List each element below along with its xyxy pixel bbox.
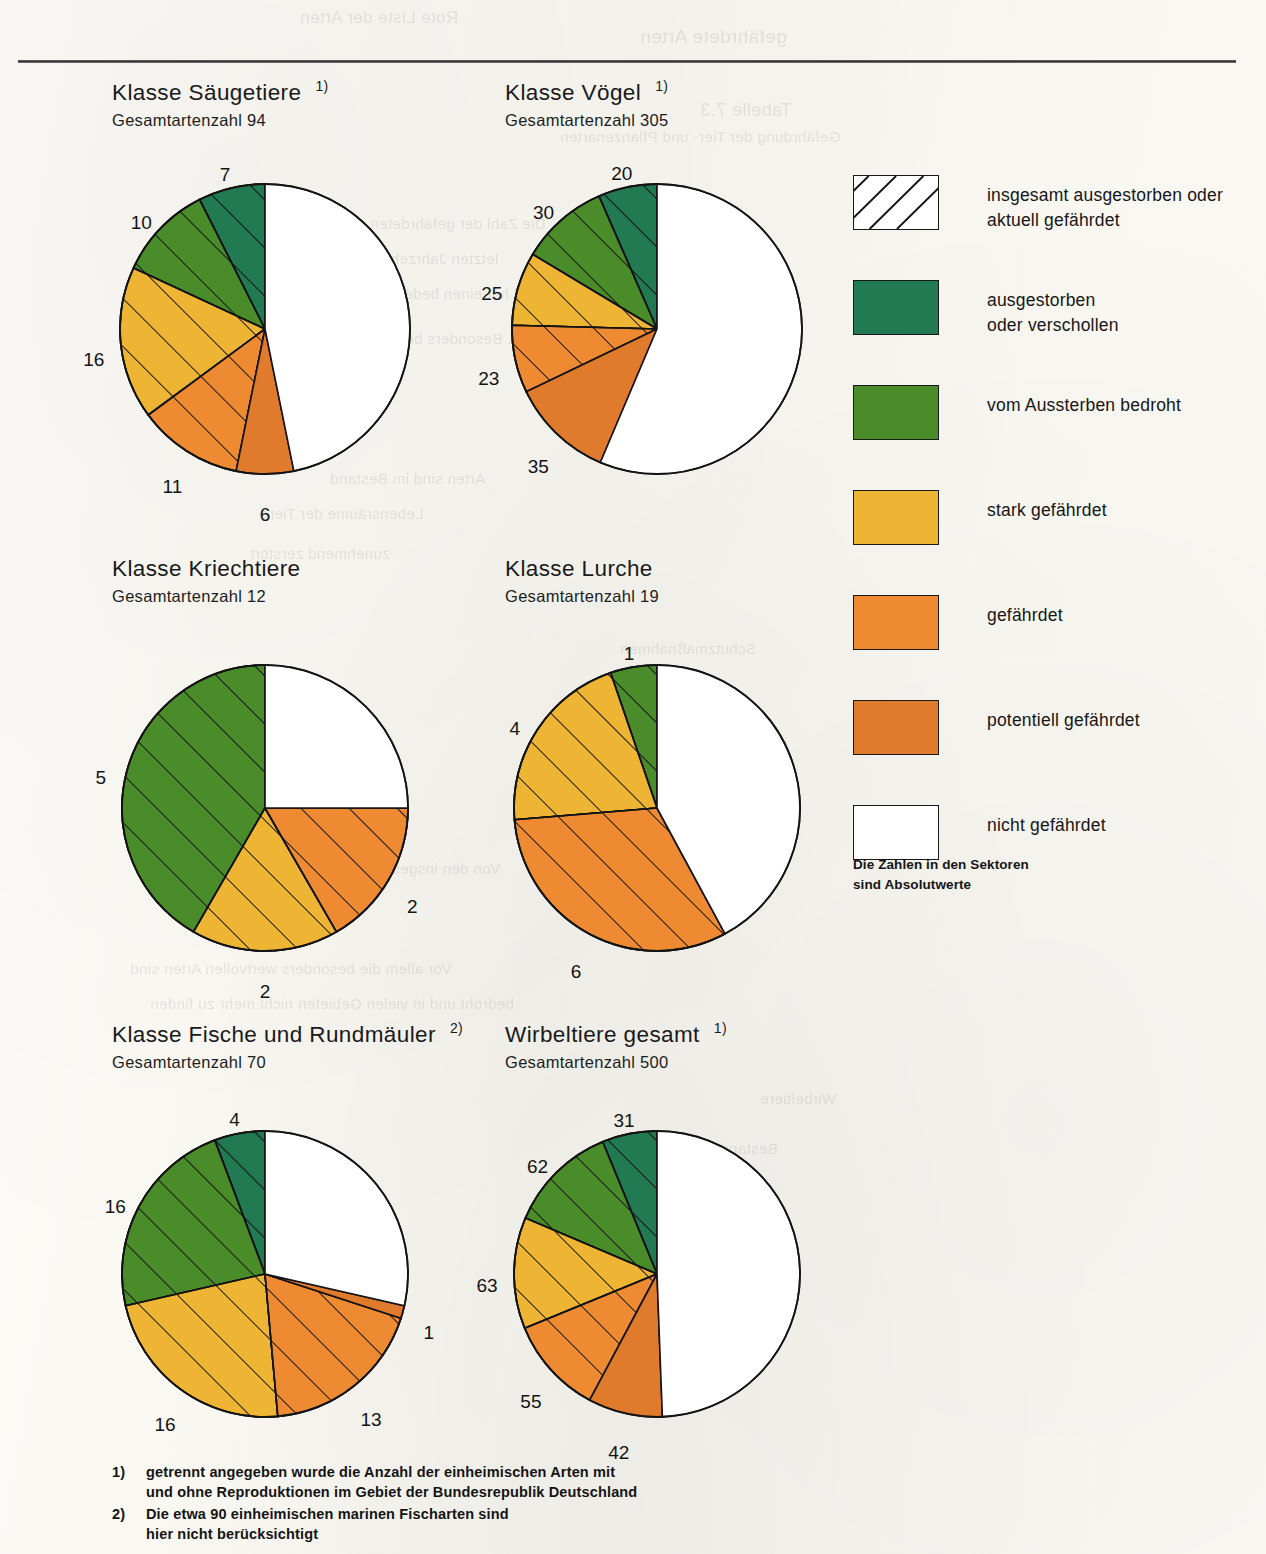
pie-sector-label: 55 (520, 1391, 541, 1413)
pie-sector-label: 10 (131, 212, 152, 234)
pie-sector-label: 2 (407, 896, 418, 918)
hatch-pattern-icon (854, 176, 938, 229)
chart-title-text: Klasse Säugetiere (112, 80, 301, 105)
legend-swatch (853, 595, 939, 650)
pie-sector (657, 1131, 800, 1417)
pie-sector-label: 11 (163, 476, 183, 498)
pie-sector-label: 25 (481, 283, 502, 305)
legend-label: ausgestorben oder verschollen (987, 288, 1257, 338)
footnote: 1)getrennt angegeben wurde die Anzahl de… (112, 1462, 637, 1502)
legend-note: Die Zahlen in den Sektoren sind Absolutw… (853, 855, 1029, 894)
pie-sector-label: 16 (105, 1196, 126, 1218)
pie-sector-label: 23 (478, 368, 499, 390)
bleed-through-line: Rote Liste der Arten (300, 8, 458, 28)
legend-strongly-endangered: stark gefährdet (853, 490, 1253, 595)
footnote-text: getrennt angegeben wurde die Anzahl der … (146, 1462, 637, 1502)
pie-sector-label: 6 (571, 961, 582, 983)
chart-title-text: Wirbeltiere gesamt (505, 1022, 700, 1047)
legend-total-endangered: insgesamt ausgestorben oder aktuell gefä… (853, 175, 1253, 280)
chart-title-kriechtiere: Klasse Kriechtiere (112, 556, 458, 582)
pie-sector-label: 6 (260, 504, 271, 526)
footnote: 2)Die etwa 90 einheimischen marinen Fisc… (112, 1504, 637, 1544)
pie-chart-saeugetiere: Klasse Säugetiere1)Gesamtartenzahl 94710… (112, 78, 458, 524)
legend-label: insgesamt ausgestorben oder aktuell gefä… (987, 183, 1257, 233)
bleed-through-line: gefährdete Arten (640, 26, 787, 48)
chart-footnote-marker: 2) (450, 1020, 463, 1036)
chart-footnote-marker: 1) (714, 1020, 727, 1036)
pie-sector (265, 665, 408, 808)
pie-sector-label: 20 (611, 163, 632, 185)
pie-sector-label: 4 (509, 718, 520, 740)
pie-chart-fische: Klasse Fische und Rundmäuler2)Gesamtarte… (112, 1020, 463, 1467)
pie-svg-voegel (505, 144, 849, 524)
chart-subtitle-wirbeltiere: Gesamtartenzahl 500 (505, 1053, 849, 1072)
pie-sector-label: 1 (424, 1322, 435, 1344)
pie-sector-label: 13 (360, 1409, 381, 1431)
pie-sector-label: 63 (476, 1275, 497, 1297)
pie-sector-label: 16 (154, 1414, 175, 1436)
chart-subtitle-fische: Gesamtartenzahl 70 (112, 1053, 463, 1072)
chart-title-text: Klasse Fische und Rundmäuler (112, 1022, 436, 1047)
chart-title-voegel: Klasse Vögel1) (505, 78, 849, 106)
chart-title-text: Klasse Vögel (505, 80, 641, 105)
pie-saeugetiere: 71016116 (112, 144, 458, 524)
pie-svg-lurche (505, 620, 849, 1001)
pie-voegel: 2030252335 (505, 144, 849, 524)
chart-footnote-marker: 1) (315, 78, 328, 94)
legend: insgesamt ausgestorben oder aktuell gefä… (853, 175, 1253, 910)
pie-sector-label: 1 (624, 643, 635, 665)
chart-subtitle-voegel: Gesamtartenzahl 305 (505, 111, 849, 130)
chart-title-wirbeltiere: Wirbeltiere gesamt1) (505, 1020, 849, 1048)
footnote-text: Die etwa 90 einheimischen marinen Fischa… (146, 1504, 509, 1544)
pie-sector-label: 5 (96, 767, 107, 789)
legend-endangered: gefährdet (853, 595, 1253, 700)
legend-extinct: ausgestorben oder verschollen (853, 280, 1253, 385)
pie-sector-label: 42 (608, 1442, 629, 1464)
chart-subtitle-kriechtiere: Gesamtartenzahl 12 (112, 587, 458, 606)
legend-label: nicht gefährdet (987, 813, 1257, 838)
legend-threatened-extinction: vom Aussterben bedroht (853, 385, 1253, 490)
header-rule (18, 60, 1236, 63)
chart-title-lurche: Klasse Lurche (505, 556, 849, 582)
chart-title-fische: Klasse Fische und Rundmäuler2) (112, 1020, 463, 1048)
legend-swatch (853, 805, 939, 860)
pie-chart-wirbeltiere: Wirbeltiere gesamt1)Gesamtartenzahl 5003… (505, 1020, 849, 1467)
pie-sector-label: 31 (614, 1110, 635, 1132)
pie-lurche: 146 (505, 620, 849, 1001)
pie-sector-label: 7 (220, 164, 231, 186)
legend-swatch (853, 490, 939, 545)
pie-sector-label: 62 (527, 1156, 548, 1178)
footnote-marker: 2) (112, 1504, 146, 1544)
pie-sector (265, 184, 410, 471)
pie-svg-wirbeltiere (505, 1086, 849, 1467)
legend-potentially-endangered: potentiell gefährdet (853, 700, 1253, 805)
legend-label: vom Aussterben bedroht (987, 393, 1257, 418)
pie-kriechtiere: 522 (112, 620, 458, 1001)
chart-subtitle-lurche: Gesamtartenzahl 19 (505, 587, 849, 606)
chart-subtitle-saeugetiere: Gesamtartenzahl 94 (112, 111, 458, 130)
legend-swatch (853, 175, 939, 230)
pie-sector-label: 30 (533, 202, 554, 224)
pie-sector-label: 35 (528, 456, 549, 478)
pie-chart-voegel: Klasse Vögel1)Gesamtartenzahl 3052030252… (505, 78, 849, 524)
legend-swatch (853, 280, 939, 335)
legend-swatch (853, 700, 939, 755)
legend-swatch (853, 385, 939, 440)
pie-svg-fische (112, 1086, 458, 1467)
pie-sector-label: 4 (229, 1109, 240, 1131)
pie-svg-saeugetiere (112, 144, 458, 524)
pie-fische: 41616131 (112, 1086, 463, 1467)
footnote-marker: 1) (112, 1462, 146, 1502)
pie-svg-kriechtiere (112, 620, 458, 1001)
chart-footnote-marker: 1) (655, 78, 668, 94)
legend-label: stark gefährdet (987, 498, 1257, 523)
pie-sector-label: 2 (260, 981, 271, 1003)
chart-title-saeugetiere: Klasse Säugetiere1) (112, 78, 458, 106)
pie-sector (265, 1131, 408, 1306)
pie-chart-lurche: Klasse LurcheGesamtartenzahl 19146 (505, 556, 849, 1001)
chart-title-text: Klasse Lurche (505, 556, 653, 581)
pie-chart-kriechtiere: Klasse KriechtiereGesamtartenzahl 12522 (112, 556, 458, 1001)
pie-wirbeltiere: 3162635542 (505, 1086, 849, 1467)
legend-label: gefährdet (987, 603, 1257, 628)
footnotes: 1)getrennt angegeben wurde die Anzahl de… (112, 1462, 637, 1546)
